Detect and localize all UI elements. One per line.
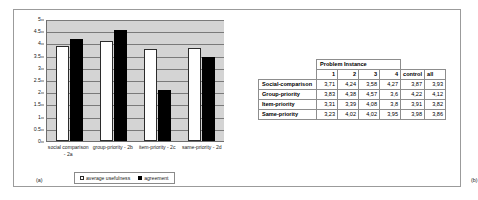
bar-usefulness [100,41,113,141]
table-column-header-1: 1 [317,70,338,80]
y-axis-tick-label: 1.5 [34,103,41,108]
table-cell-value: 3,8 [380,100,401,110]
table-column-header-3: 3 [359,70,380,80]
table-row: Item-priority3,313,394,083,83,913,82 [259,100,446,110]
table-cell-value: 3,93 [425,80,446,90]
table-cell-value: 4,08 [359,100,380,110]
table-cell-value: 4,38 [338,90,359,100]
legend-label-agreement: agreement [144,175,168,181]
table-row-label: Same-priority [259,110,317,120]
table-row-label: Item-priority [259,100,317,110]
y-axis-tick-label: 4.5 [34,30,41,35]
chart-plot-area [46,20,224,142]
legend-label-usefulness: average usefulness [86,175,130,181]
table-column-header-all: all [425,70,446,80]
y-axis-tick-mark [41,44,44,45]
table-cell-value: 4,02 [338,110,359,120]
bar-usefulness [56,46,69,141]
table-cell-value: 4,27 [380,80,401,90]
table-cell-value: 4,57 [359,90,380,100]
group-header-problem-instance: Problem Instance [317,60,401,70]
y-axis-tick-label: 2.5 [34,78,41,83]
figure-frame: 54.543.532.521.510.50 social comparison … [13,9,461,187]
bar-usefulness [144,49,157,141]
y-axis-tick-mark [41,68,44,69]
table-row: Group-priority3,834,384,573,64,224,12 [259,90,446,100]
bar-group [180,20,224,141]
legend-swatch-icon-agreement [138,176,142,180]
bar-group [47,20,91,141]
y-axis-tick-label: 0.5 [34,127,41,132]
corner-cell-blank-2 [259,70,317,80]
y-axis-tick-mark [41,56,44,57]
table-body: Social-comparison3,714,243,584,273,873,9… [259,80,446,120]
table-cell-value: 3,91 [401,100,425,110]
table-cell-value: 3,31 [317,100,338,110]
table-cell-value: 3,86 [425,110,446,120]
panel-caption-a: (a) [36,177,43,183]
table-group-header-row: Problem Instance [259,60,446,70]
bar-chart-panel: 54.543.532.521.510.50 social comparison … [14,10,236,188]
bar-group [136,20,180,141]
table-cell-value: 3,95 [380,110,401,120]
table-cell-value: 4,22 [401,90,425,100]
legend-item-usefulness: average usefulness [80,175,130,181]
chart-legend: average usefulness agreement [74,172,175,184]
table-head: Problem Instance 1234controlall [259,60,446,80]
table-cell-value: 3,39 [338,100,359,110]
table-row-label: Group-priority [259,90,317,100]
table-row: Social-comparison3,714,243,584,273,873,9… [259,80,446,90]
table-cell-value: 3,71 [317,80,338,90]
y-axis-tick-mark [41,105,44,106]
table-cell-value: 3,82 [425,100,446,110]
x-axis-tick-label: group-priority - 2b [91,144,136,158]
x-axis-tick-label: item-priority - 2c [135,144,180,158]
table-column-header-row: 1234controlall [259,70,446,80]
y-axis-tick-mark [41,81,44,82]
table-cell-value: 3,87 [401,80,425,90]
spacer-cell-control [401,60,425,70]
table-cell-value: 3,23 [317,110,338,120]
results-table: Problem Instance 1234controlall Social-c… [258,59,446,120]
bar-usefulness [188,48,201,141]
y-axis-tick-mark [41,142,44,143]
panel-caption-b: (b) [471,177,478,183]
table-cell-value: 3,98 [401,110,425,120]
table-column-header-4: 4 [380,70,401,80]
table-row: Same-priority3,234,024,023,953,983,86 [259,110,446,120]
table-cell-value: 3,83 [317,90,338,100]
table-panel: Problem Instance 1234controlall Social-c… [236,10,462,188]
bar-agreement [114,30,127,141]
y-axis: 54.543.532.521.510.50 [14,20,44,142]
bar-agreement [70,39,83,141]
y-axis-tick-label: 3.5 [34,54,41,59]
y-axis-tick-mark [41,117,44,118]
spacer-cell-all [425,60,446,70]
y-axis-tick-mark [41,93,44,94]
table-row-label: Social-comparison [259,80,317,90]
table-column-header-control: control [401,70,425,80]
y-axis-tick-mark [41,129,44,130]
table-cell-value: 4,02 [359,110,380,120]
table-column-header-2: 2 [338,70,359,80]
bars-layer [47,20,224,141]
bar-agreement [158,90,171,141]
x-axis-tick-label: same-priority - 2d [180,144,225,158]
corner-cell-blank [259,60,317,70]
bar-agreement [202,57,215,141]
table-cell-value: 3,58 [359,80,380,90]
table-cell-value: 4,12 [425,90,446,100]
y-axis-tick-mark [41,32,44,33]
y-axis-tick-mark [41,20,44,21]
x-axis: social comparison - 2agroup-priority - 2… [46,144,224,158]
table-cell-value: 4,24 [338,80,359,90]
legend-swatch-icon-usefulness [80,176,84,180]
x-axis-tick-label: social comparison - 2a [46,144,91,158]
legend-item-agreement: agreement [138,175,168,181]
bar-group [91,20,135,141]
table-cell-value: 3,6 [380,90,401,100]
